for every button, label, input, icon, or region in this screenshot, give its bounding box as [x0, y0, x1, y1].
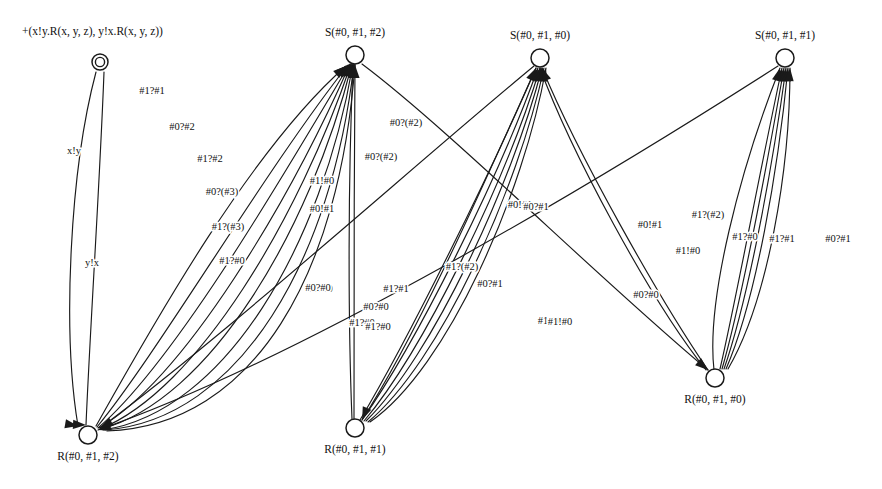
node-outer-circle: [346, 419, 364, 437]
edge-label: #1?#1: [139, 85, 165, 96]
transition-graph: x!yx!yy!xy!x#1?#1#1?#1#0?#2#0?#2#1?#2#1?…: [0, 0, 882, 489]
edge-path: [100, 66, 534, 428]
state-node-R012[interactable]: [79, 426, 97, 444]
edge-path: [362, 64, 708, 370]
node-inner-circle: [95, 57, 104, 66]
arrowhead: [695, 358, 708, 370]
arrowhead: [772, 68, 781, 82]
edge-label: #1?#1: [383, 283, 409, 294]
edge-label: #0?(#3): [206, 186, 239, 198]
node-outer-circle: [776, 49, 794, 67]
edge-label: #0?#2: [169, 121, 195, 132]
node-label: R(#0, #1, #0): [684, 393, 746, 406]
edge-path: [98, 65, 349, 428]
edge-label: #0?#1: [825, 233, 851, 244]
state-node-S010[interactable]: [531, 49, 549, 67]
edge-path: [86, 72, 104, 425]
edge-path: [360, 68, 536, 420]
edge-label: #1?#0: [365, 321, 391, 332]
node-labels-layer: S(#0, #1, #2)S(#0, #1, #0)S(#0, #1, #1)R…: [57, 26, 815, 463]
node-outer-circle: [706, 369, 724, 387]
edge-label: y!x: [85, 257, 100, 268]
edge-path: [100, 64, 351, 429]
edge-label: #1?#2: [197, 153, 223, 164]
node-label: S(#0, #1, #0): [510, 29, 570, 42]
edge-label: #0?(#2): [365, 151, 398, 163]
edge-path: [97, 65, 348, 427]
state-node-S012[interactable]: [346, 46, 364, 64]
node-outer-circle: [79, 426, 97, 444]
node-label: S(#0, #1, #1): [755, 29, 815, 42]
node-label: R(#0, #1, #2): [57, 450, 119, 463]
state-node-init[interactable]: [92, 54, 108, 70]
edge-label: #0?#0: [363, 301, 389, 312]
edge-path: [720, 68, 782, 369]
diagram-canvas: x!yx!yy!xy!x#1?#1#1?#1#0?#2#0?#2#1?#2#1?…: [0, 0, 882, 489]
edge-label: #1?(#2): [692, 209, 725, 221]
edge-path: [726, 68, 788, 369]
edge-label: x!y: [67, 145, 82, 156]
node-label: R(#0, #1, #1): [324, 443, 386, 456]
edge-path: [101, 64, 352, 429]
edge-label: #1?(#2): [446, 261, 479, 273]
arrowhead: [542, 68, 551, 82]
formula-label: +(x!y.R(x, y, z), y!x.R(x, y, z)): [22, 25, 163, 38]
state-node-R010[interactable]: [706, 369, 724, 387]
state-node-R011[interactable]: [346, 419, 364, 437]
edge-label: #0?#1: [477, 278, 503, 289]
edge-label: #0?#0: [305, 282, 331, 293]
edge-path: [103, 64, 353, 430]
edge-label: #0?#1: [523, 201, 549, 212]
edge-label: #1?(#3): [212, 221, 245, 233]
edge-label: #1?#0: [219, 255, 245, 266]
node-outer-circle: [531, 49, 549, 67]
edge-label: #0?(#2): [390, 117, 423, 129]
edge-label: #1!#0: [548, 316, 573, 327]
edge-label: #1?#1: [769, 233, 795, 244]
node-label: S(#0, #1, #2): [325, 26, 385, 39]
edge-label: #0!#1: [310, 203, 335, 214]
state-node-S011[interactable]: [776, 49, 794, 67]
edge-path: [354, 65, 355, 419]
edge-path: [70, 72, 96, 426]
edge-label: #0?#0: [633, 289, 659, 300]
edge-label: #1!#0: [310, 175, 335, 186]
edge-label: #1!#0: [676, 245, 701, 256]
node-outer-circle: [346, 46, 364, 64]
edge-label: #0!#1: [638, 219, 663, 230]
edge-label: #1?#0: [732, 231, 758, 242]
edge-path: [362, 68, 538, 420]
edge-path: [362, 68, 536, 420]
edge-path: [722, 68, 784, 369]
